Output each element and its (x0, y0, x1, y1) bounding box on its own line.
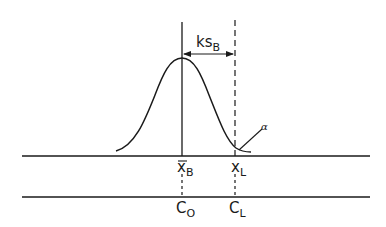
ks-base: ks (196, 33, 213, 51)
co-sub: O (186, 207, 195, 220)
ks-arrow-head-right (226, 51, 234, 57)
cl-label: CL (229, 201, 246, 219)
alpha-label: α (261, 121, 268, 132)
cl-sub: L (239, 207, 245, 220)
xbar-label: xB (177, 160, 193, 178)
cl-base: C (229, 199, 239, 217)
alpha-pointer (239, 129, 262, 150)
co-label: CO (176, 201, 195, 219)
ks-label: ksB (196, 35, 220, 53)
bell-curve (116, 58, 251, 152)
distribution-diagram (0, 0, 386, 227)
xl-base: x (231, 158, 240, 176)
xbar-sub: B (186, 166, 194, 179)
ks-arrow-head-left (183, 51, 191, 57)
ks-sub: B (213, 41, 221, 54)
xbar-base: x (177, 158, 186, 176)
xl-sub: L (240, 166, 246, 179)
co-base: C (176, 199, 186, 217)
xl-label: xL (231, 160, 246, 178)
